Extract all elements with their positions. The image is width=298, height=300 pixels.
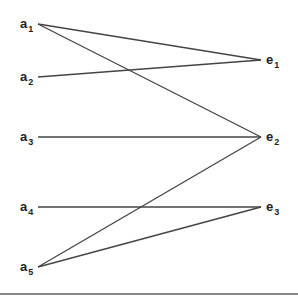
node-label-subscript: 3	[274, 207, 279, 217]
edge-a2-e1	[38, 60, 261, 77]
node-label-base: e	[266, 199, 273, 214]
node-label-subscript: 3	[28, 137, 33, 147]
edge-a5-e3	[38, 207, 261, 267]
node-label-e2: e2	[266, 130, 279, 143]
bottom-divider	[0, 293, 298, 295]
node-label-base: a	[20, 259, 27, 274]
node-label-subscript: 5	[28, 267, 33, 277]
node-label-a1: a1	[20, 17, 33, 30]
node-label-e3: e3	[266, 200, 279, 213]
node-label-subscript: 2	[28, 77, 33, 87]
node-label-base: a	[20, 69, 27, 84]
edge-a1-e1	[38, 24, 261, 60]
node-label-base: e	[266, 52, 273, 67]
node-label-e1: e1	[266, 53, 279, 66]
node-label-a2: a2	[20, 70, 33, 83]
node-label-a3: a3	[20, 130, 33, 143]
node-label-base: e	[266, 129, 273, 144]
node-label-a5: a5	[20, 260, 33, 273]
node-label-base: a	[20, 199, 27, 214]
node-label-subscript: 1	[274, 60, 279, 70]
bipartite-graph	[0, 0, 298, 300]
node-label-subscript: 4	[28, 207, 33, 217]
node-label-subscript: 1	[28, 24, 33, 34]
node-label-subscript: 2	[274, 137, 279, 147]
node-label-base: a	[20, 16, 27, 31]
edge-a1-e2	[38, 24, 261, 137]
node-label-a4: a4	[20, 200, 33, 213]
node-label-base: a	[20, 129, 27, 144]
edge-a5-e2	[38, 137, 261, 267]
